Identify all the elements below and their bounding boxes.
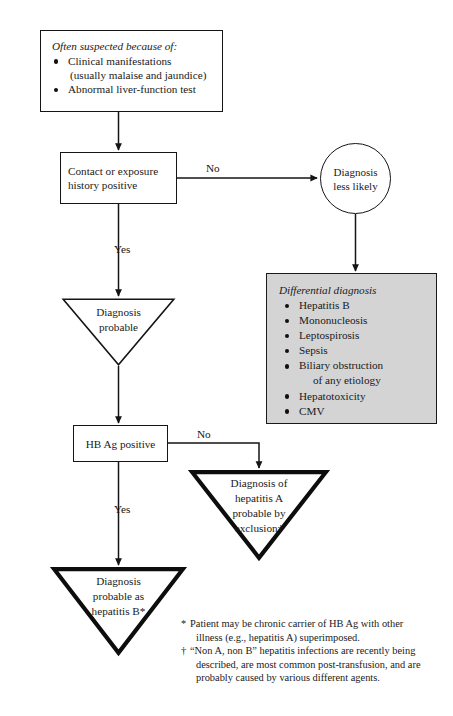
hbag-box-line1: HB Ag positive xyxy=(86,437,156,451)
differential-bullet-0-text: Hepatitis B xyxy=(299,299,350,311)
diagnosis-probable-triangle: Diagnosis probable xyxy=(62,298,175,366)
bullet-dot-icon xyxy=(285,409,289,413)
edge-label-yes-contact: Yes xyxy=(114,243,130,256)
differential-bullet-4-text: Biliary obstruction xyxy=(299,359,383,371)
bullet-dot-icon xyxy=(285,304,289,308)
bullet-dot-icon xyxy=(54,88,58,92)
bullet-dot-icon xyxy=(285,319,289,323)
list-item: Hepatotoxicity xyxy=(279,389,430,404)
bullet-dot-icon xyxy=(285,349,289,353)
less-likely-line1: Diagnosis xyxy=(334,165,378,179)
differential-bullet-2-text: Leptospirosis xyxy=(299,329,359,341)
less-likely-line2: less likely xyxy=(333,179,377,193)
differential-bullet-5-text: Hepatotoxicity xyxy=(299,390,366,402)
differential-diagnosis-box: Differential diagnosis Hepatitis B Monon… xyxy=(266,273,437,424)
triangle-outline xyxy=(190,470,328,560)
intro-box: Often suspected because of: Clinical man… xyxy=(40,30,223,112)
edge-label-yes-hbag: Yes xyxy=(114,503,130,516)
differential-bullet-6-text: CMV xyxy=(299,405,325,417)
intro-bullet-0-continuation: (usually malaise and jaundice) xyxy=(68,68,214,82)
bullet-dot-icon xyxy=(285,334,289,338)
edge-hbag-no-to-hepa xyxy=(168,443,259,468)
bullet-dot-icon xyxy=(285,394,289,398)
bullet-dot-icon xyxy=(54,59,58,63)
differential-bullet-3-text: Sepsis xyxy=(299,344,328,356)
footnote-asterisk: *Patient may be chronic carrier of HB Ag… xyxy=(181,617,449,644)
hepatitis-a-triangle: Diagnosis of hepatitis A probable by exc… xyxy=(190,470,328,560)
bullet-dot-icon xyxy=(285,364,289,368)
hepatitis-b-triangle: Diagnosis probable as hepatitis B* xyxy=(52,567,185,655)
footnote-marker: † xyxy=(181,644,190,658)
list-item: Mononucleosis xyxy=(279,313,430,328)
list-item: CMV xyxy=(279,404,430,419)
list-item: Biliary obstruction of any etiology xyxy=(279,358,430,388)
footnote-dagger: †“Non A, non B” hepatitis infections are… xyxy=(181,644,449,685)
differential-heading: Differential diagnosis xyxy=(279,283,430,298)
triangle-outline xyxy=(52,567,185,655)
edge-label-no-contact: No xyxy=(206,162,220,175)
footnote-marker: * xyxy=(181,617,190,631)
footnote-0-line2: illness (e.g., hepatitis A) superimposed… xyxy=(190,631,449,645)
footnote-1-line3: probably caused by various different age… xyxy=(190,671,449,685)
footnotes: *Patient may be chronic carrier of HB Ag… xyxy=(181,617,449,685)
intro-bullet-0-text: Clinical manifestations xyxy=(68,55,171,67)
contact-box-line1: Contact or exposure xyxy=(68,164,169,179)
hb-ag-positive-box: HB Ag positive xyxy=(73,425,168,462)
footnote-0-line1: Patient may be chronic carrier of HB Ag … xyxy=(190,618,403,629)
intro-bullet-1-text: Abnormal liver-function test xyxy=(68,83,196,95)
footnote-1-line2: described, are most common post-transfus… xyxy=(190,658,449,672)
triangle-outline xyxy=(62,298,175,366)
list-item: Sepsis xyxy=(279,343,430,358)
list-item: Abnormal liver-function test xyxy=(52,82,214,96)
contact-box-line2: history positive xyxy=(68,178,169,193)
contact-exposure-box: Contact or exposure history positive xyxy=(60,152,177,204)
diagnosis-less-likely-circle: Diagnosis less likely xyxy=(320,143,391,214)
flowchart-page: Often suspected because of: Clinical man… xyxy=(0,0,453,716)
intro-bullet-list: Clinical manifestations (usually malaise… xyxy=(52,54,214,97)
differential-bullet-list: Hepatitis B Mononucleosis Leptospirosis … xyxy=(279,298,430,419)
list-item: Hepatitis B xyxy=(279,298,430,313)
differential-bullet-1-text: Mononucleosis xyxy=(299,314,367,326)
list-item: Clinical manifestations (usually malaise… xyxy=(52,54,214,82)
differential-bullet-4-continuation: of any etiology xyxy=(299,373,430,388)
intro-heading: Often suspected because of: xyxy=(52,39,214,53)
footnote-1-line1: “Non A, non B” hepatitis infections are … xyxy=(190,645,415,656)
edge-label-no-hbag: No xyxy=(197,428,211,441)
list-item: Leptospirosis xyxy=(279,328,430,343)
